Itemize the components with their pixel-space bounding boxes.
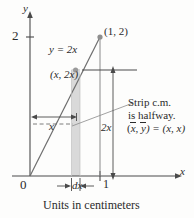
y-axis-arrowhead [27,11,33,18]
y-tick-label-2: 2 [12,29,19,43]
y-bar-symbol: y [141,123,146,135]
x-dimension-arrow-left [31,115,37,120]
point-1-2-label: (1, 2) [104,26,128,38]
origin-label: 0 [20,178,27,192]
curve-equation-label: y = 2x [49,44,77,56]
point-x-2x-label: (x, 2x) [50,69,78,81]
formula-remainder: ) = (x, x) [146,122,185,134]
x-tick-label-1: 1 [103,178,109,191]
annotation-line-2: is halfway. [128,110,176,122]
point-1-2-marker [97,34,102,39]
two-x-dimension-label: 2x [101,122,111,134]
annotation-centroid-formula: (x, y) = (x, x) [127,123,185,135]
dx-arrow-left-head [65,184,71,189]
y-axis-label: y [23,3,28,15]
x-dimension-label: x [49,121,54,133]
x-bar-symbol: x [131,123,136,135]
line-y-equals-2x [30,37,100,176]
x-axis-label: x [180,166,185,178]
figure-caption: Units in centimeters [43,199,140,212]
annotation-line-1: Strip c.m. [128,97,171,109]
dx-dimension-label: dx [72,180,82,192]
